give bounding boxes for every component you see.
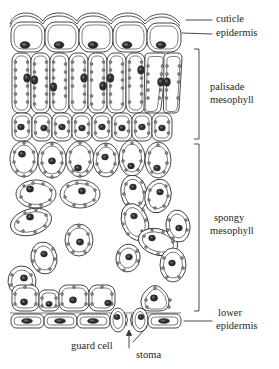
spongy-cell (141, 176, 174, 215)
label-lower-epidermis-line1: lower (218, 307, 242, 318)
epidermis-cell (79, 22, 113, 52)
spongy-cell (114, 242, 142, 274)
palisade-cell (69, 53, 88, 113)
label-stoma: stoma (136, 349, 161, 360)
palisade-cell (12, 113, 32, 141)
spongy-cell (145, 142, 171, 178)
palisade-cell (132, 113, 152, 141)
palisade-cell (92, 113, 112, 141)
spongy-cell (119, 140, 145, 176)
epidermis-leader-line (182, 33, 212, 34)
label-guard-cell: guard cell (71, 340, 113, 351)
diagram-canvas: cuticle epidermis palisade mesophyll spo… (0, 0, 279, 369)
guard-cell-pair (110, 308, 148, 332)
label-palisade-mesophyll-line2: mesophyll (210, 94, 254, 105)
label-cuticle: cuticle (216, 13, 244, 24)
spongy-cell (38, 142, 66, 179)
epidermis-cell (113, 22, 147, 52)
palisade-cell (88, 53, 107, 113)
spongy-cell (7, 204, 55, 241)
palisade-cell (31, 53, 50, 113)
spongy-cell (28, 240, 59, 276)
guard-cell (110, 308, 126, 332)
label-palisade-mesophyll-line1: palisade (210, 81, 245, 92)
palisade-cell (72, 113, 92, 141)
spongy-cell (89, 285, 115, 311)
palisade-cell (50, 53, 69, 113)
epidermis-cell (11, 22, 45, 52)
palisade-cell (126, 53, 145, 113)
palisade-cell (112, 113, 132, 141)
stoma-arrow (126, 330, 131, 348)
epidermis-cell (147, 23, 181, 52)
lower-epidermis-layer (10, 308, 181, 332)
spongy-mesophyll-layer (7, 140, 193, 311)
lower-epidermis-cell (148, 314, 181, 328)
spongy-cell (60, 180, 100, 208)
spongy-cell (141, 286, 172, 312)
lower-epidermis-cell (77, 314, 110, 328)
spongy-cell (12, 285, 39, 311)
upper-epidermis-layer (11, 22, 181, 52)
palisade-cell (52, 113, 72, 141)
palisade-cell (152, 113, 172, 141)
label-epidermis: epidermis (216, 27, 257, 38)
label-spongy-mesophyll-line1: spongy (214, 212, 245, 223)
palisade-cell (163, 53, 182, 113)
leaf-cross-section-figure: cuticle epidermis palisade mesophyll spo… (0, 0, 279, 369)
spongy-cell (10, 141, 38, 178)
palisade-cell (107, 53, 126, 113)
palisade-bracket (194, 49, 199, 139)
spongy-cell (16, 180, 56, 208)
stoma-pore (126, 314, 132, 326)
spongy-cell (65, 224, 93, 256)
spongy-cell (160, 248, 186, 282)
lower-epidermis-cell (44, 314, 77, 328)
lower-epidermis-cell (11, 314, 44, 328)
label-spongy-mesophyll-line2: mesophyll (210, 225, 254, 236)
label-lower-epidermis-line2: epidermis (216, 320, 257, 331)
spongy-cell (59, 285, 89, 311)
spongy-cell (66, 141, 94, 178)
spongy-cell (93, 143, 119, 177)
spongy-cell (39, 290, 59, 311)
palisade-cell (32, 113, 52, 141)
palisade-cell (12, 53, 31, 113)
palisade-mesophyll-layer (12, 53, 182, 141)
epidermis-cell (45, 22, 79, 52)
spongy-bracket (194, 144, 199, 311)
